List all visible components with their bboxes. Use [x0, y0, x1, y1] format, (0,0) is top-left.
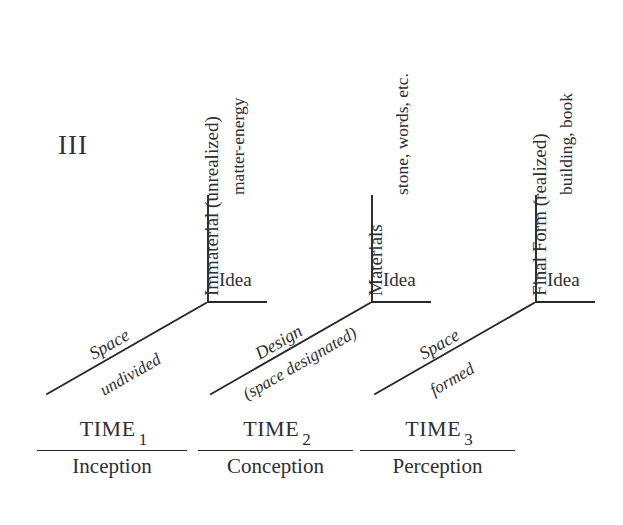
- time-stage-1: Inception: [37, 451, 187, 479]
- time-subscript-2: 2: [302, 430, 311, 449]
- group-1-vertical-axis-sublabel: matter-energy: [230, 98, 248, 195]
- group-2-diagonal-axis: [211, 303, 370, 394]
- time-label-2: TIME2: [198, 416, 353, 450]
- time-stage-3: Perception: [360, 451, 515, 479]
- plate-numeral: III: [58, 132, 88, 159]
- group-1-diagonal-axis-sublabel: undivided: [97, 350, 164, 398]
- group-1-horizontal-axis-label: Idea: [219, 270, 252, 289]
- time-word-2: TIME: [243, 416, 299, 441]
- group-3-diagonal-axis-sublabel: formed: [427, 360, 477, 399]
- time-word-3: TIME: [405, 416, 461, 441]
- time-block-1: TIME1 Inception: [37, 416, 187, 479]
- group-3-diagonal-axis-label: Space: [416, 326, 462, 363]
- group-3-horizontal-axis-label: Idea: [547, 270, 580, 289]
- time-block-2: TIME2 Conception: [198, 416, 353, 479]
- time-label-3: TIME3: [360, 416, 515, 450]
- time-subscript-3: 3: [464, 430, 473, 449]
- diagram-canvas: III Immaterial (unrealized) matter-energ…: [0, 0, 623, 525]
- group-1-diagonal-axis-label: Space: [86, 326, 132, 363]
- time-label-1: TIME1: [37, 416, 187, 450]
- time-subscript-1: 1: [139, 430, 148, 449]
- group-2-vertical-axis-sublabel: stone, words, etc.: [394, 73, 412, 195]
- time-block-3: TIME3 Perception: [360, 416, 515, 479]
- time-word-1: TIME: [80, 416, 136, 441]
- time-stage-2: Conception: [198, 451, 353, 479]
- group-2-horizontal-axis-label: Idea: [383, 270, 416, 289]
- group-3-vertical-axis-sublabel: building, book: [558, 93, 576, 195]
